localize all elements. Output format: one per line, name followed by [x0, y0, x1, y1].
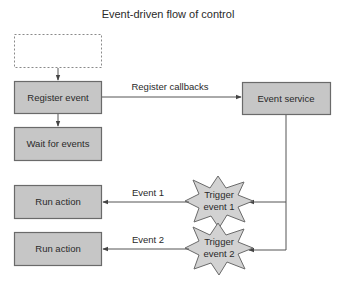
- trigger-event-2-line1: Trigger: [204, 236, 234, 247]
- register-event-node: Register event: [15, 82, 102, 114]
- run-action-2-node: Run action: [15, 233, 102, 266]
- wait-for-events-label: Wait for events: [26, 138, 89, 149]
- trigger-event-2-node: Trigger event 2: [185, 223, 253, 275]
- event-2-label: Event 2: [132, 234, 164, 245]
- trigger-event-1-line2: event 1: [203, 201, 234, 212]
- event-service-node: Event service: [243, 83, 331, 115]
- trigger-event-1-line1: Trigger: [204, 189, 234, 200]
- trigger-event-1-node: Trigger event 1: [185, 176, 253, 228]
- run-action-1-node: Run action: [15, 186, 102, 219]
- diagram-title: Event-driven flow of control: [102, 8, 235, 20]
- run-action-1-label: Run action: [35, 196, 80, 207]
- trigger-event-2-line2: event 2: [203, 248, 234, 259]
- placeholder-node: [15, 35, 102, 68]
- event-service-label: Event service: [257, 93, 314, 104]
- register-callbacks-label: Register callbacks: [131, 81, 208, 92]
- event-1-label: Event 1: [132, 187, 164, 198]
- wait-for-events-node: Wait for events: [15, 128, 102, 161]
- register-event-label: Register event: [27, 92, 89, 103]
- run-action-2-label: Run action: [35, 243, 80, 254]
- diagram-canvas: Event-driven flow of control Register ev…: [0, 0, 337, 284]
